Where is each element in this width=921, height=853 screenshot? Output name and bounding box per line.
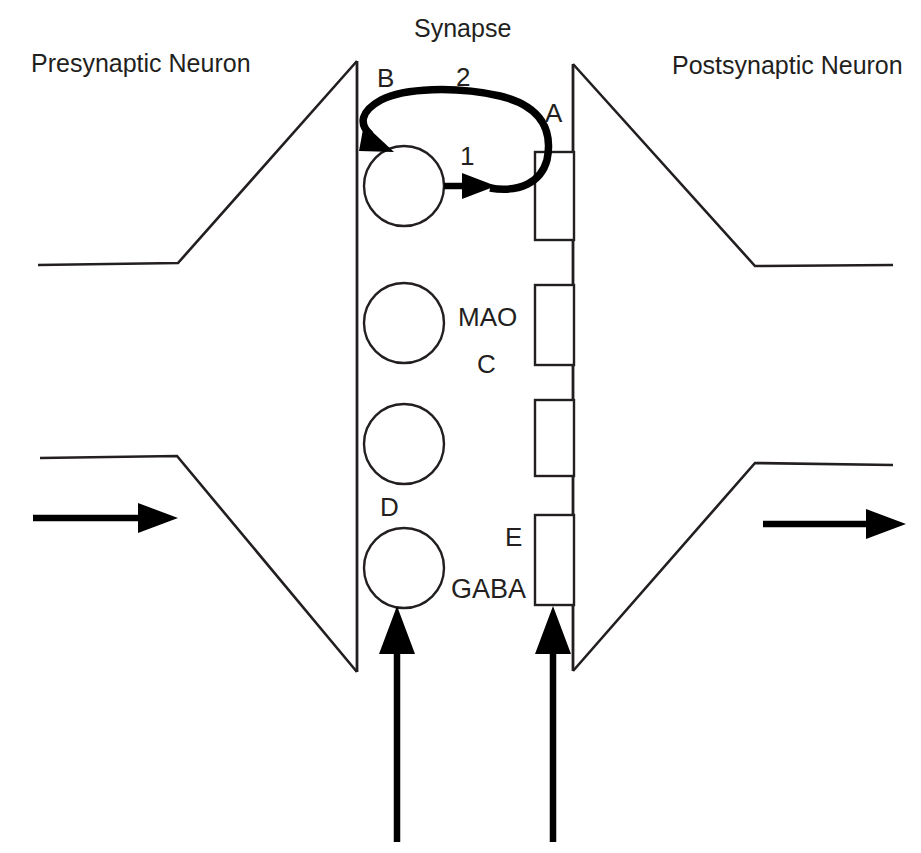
presynaptic-neuron-outline — [38, 61, 357, 672]
receptor-group — [535, 152, 574, 605]
synaptic-vesicle-group — [364, 146, 444, 608]
synapse-diagram-svg — [0, 0, 921, 853]
receptor-site — [535, 285, 574, 365]
label-e: E — [505, 524, 522, 550]
bold-up-arrow-left — [379, 606, 415, 842]
label-a: A — [545, 100, 562, 126]
label-c: C — [477, 351, 496, 377]
bold-up-arrow-right — [535, 606, 571, 842]
receptor-site — [535, 400, 574, 476]
receptor-site — [535, 515, 574, 605]
diagram-canvas: Synapse Presynaptic Neuron Postsynaptic … — [0, 0, 921, 853]
label-1: 1 — [460, 143, 474, 169]
signal-flow-arrow-left — [33, 503, 178, 533]
label-b: B — [377, 65, 394, 91]
label-d: D — [380, 494, 399, 520]
release-arrow-1 — [444, 173, 496, 199]
postsynaptic-neuron-label: Postsynaptic Neuron — [672, 53, 903, 78]
synaptic-vesicle — [364, 404, 444, 484]
synaptic-vesicle — [364, 528, 444, 608]
label-mao: MAO — [458, 304, 517, 330]
label-gaba: GABA — [451, 576, 526, 603]
synaptic-vesicle — [364, 146, 444, 226]
receptor-site — [535, 152, 574, 240]
presynaptic-neuron-label: Presynaptic Neuron — [31, 51, 251, 76]
signal-flow-arrow-right — [763, 509, 906, 539]
synaptic-vesicle — [364, 283, 444, 363]
postsynaptic-neuron-outline — [573, 64, 893, 671]
label-2: 2 — [456, 64, 470, 90]
diagram-title: Synapse — [414, 16, 511, 41]
